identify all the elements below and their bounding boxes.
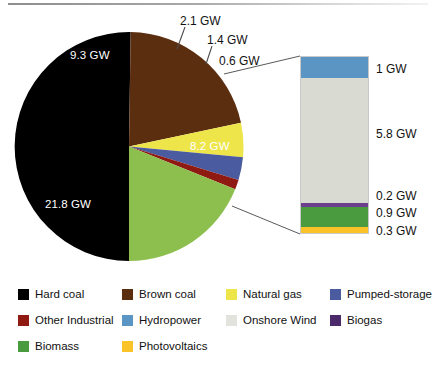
legend-item-hard-coal[interactable]: Hard coal bbox=[18, 281, 122, 307]
legend-swatch-biomass bbox=[18, 341, 29, 352]
bar-segment-hydropower bbox=[301, 57, 368, 78]
legend-swatch-hard-coal bbox=[18, 289, 29, 300]
legend-item-other-industrial[interactable]: Other Industrial bbox=[18, 307, 122, 333]
legend-item-pumped-storage[interactable]: Pumped-storage bbox=[330, 281, 434, 307]
legend-item-onshore-wind[interactable]: Onshore Wind bbox=[226, 307, 330, 333]
bar-label-hydropower: 1 GW bbox=[376, 62, 407, 76]
legend-item-brown-coal[interactable]: Brown coal bbox=[122, 281, 226, 307]
pie-label-renewables: 8.2 GW bbox=[190, 140, 230, 152]
pie-callout-natural-gas: 2.1 GW bbox=[180, 14, 221, 28]
legend-swatch-brown-coal bbox=[122, 289, 133, 300]
pie-callout-pumped-storage: 1.4 GW bbox=[207, 33, 248, 47]
legend-swatch-natural-gas bbox=[226, 289, 237, 300]
legend-item-photovoltaics[interactable]: Photovoltaics bbox=[122, 333, 226, 359]
legend-label-pumped-storage: Pumped-storage bbox=[347, 288, 432, 300]
pie-callout-other-industrial: 0.6 GW bbox=[219, 54, 260, 68]
legend-swatch-biogas bbox=[330, 315, 341, 326]
bar-label-biomass: 0.9 GW bbox=[376, 206, 417, 220]
legend-label-hard-coal: Hard coal bbox=[35, 288, 84, 300]
legend-label-hydropower: Hydropower bbox=[139, 314, 201, 326]
legend-label-photovoltaics: Photovoltaics bbox=[139, 340, 207, 352]
bar-label-biogas: 0.2 GW bbox=[376, 189, 417, 203]
bar-segment-biomass bbox=[301, 207, 368, 226]
legend-item-biogas[interactable]: Biogas bbox=[330, 307, 434, 333]
legend-item-biomass[interactable]: Biomass bbox=[18, 333, 122, 359]
legend-item-hydropower[interactable]: Hydropower bbox=[122, 307, 226, 333]
pie-label-brown-coal: 9.3 GW bbox=[70, 49, 110, 61]
bar-label-photovoltaics: 0.3 GW bbox=[376, 224, 417, 238]
legend-swatch-pumped-storage bbox=[330, 289, 341, 300]
pie-label-hard-coal: 21.8 GW bbox=[45, 198, 91, 210]
top-divider-rule bbox=[8, 3, 428, 5]
chart-figure: 9.3 GW 21.8 GW 8.2 GW 2.1 GW 1.4 GW 0.6 … bbox=[0, 0, 442, 366]
legend-label-biogas: Biogas bbox=[347, 314, 382, 326]
bar-label-onshore-wind: 5.8 GW bbox=[376, 127, 417, 141]
pie-slice-hard-coal bbox=[15, 32, 131, 261]
legend-item-natural-gas[interactable]: Natural gas bbox=[226, 281, 330, 307]
bar-segment-onshore-wind bbox=[301, 78, 368, 202]
renewables-stacked-bar bbox=[300, 56, 369, 234]
legend-swatch-photovoltaics bbox=[122, 341, 133, 352]
legend-swatch-other-industrial bbox=[18, 315, 29, 326]
bar-segment-photovoltaics bbox=[301, 227, 368, 233]
legend-swatch-onshore-wind bbox=[226, 315, 237, 326]
legend-label-natural-gas: Natural gas bbox=[243, 288, 302, 300]
legend-label-onshore-wind: Onshore Wind bbox=[243, 314, 317, 326]
legend-swatch-hydropower bbox=[122, 315, 133, 326]
legend-label-brown-coal: Brown coal bbox=[139, 288, 196, 300]
legend: Hard coalBrown coalNatural gasPumped-sto… bbox=[18, 281, 434, 359]
legend-label-biomass: Biomass bbox=[35, 340, 79, 352]
legend-label-other-industrial: Other Industrial bbox=[35, 314, 114, 326]
